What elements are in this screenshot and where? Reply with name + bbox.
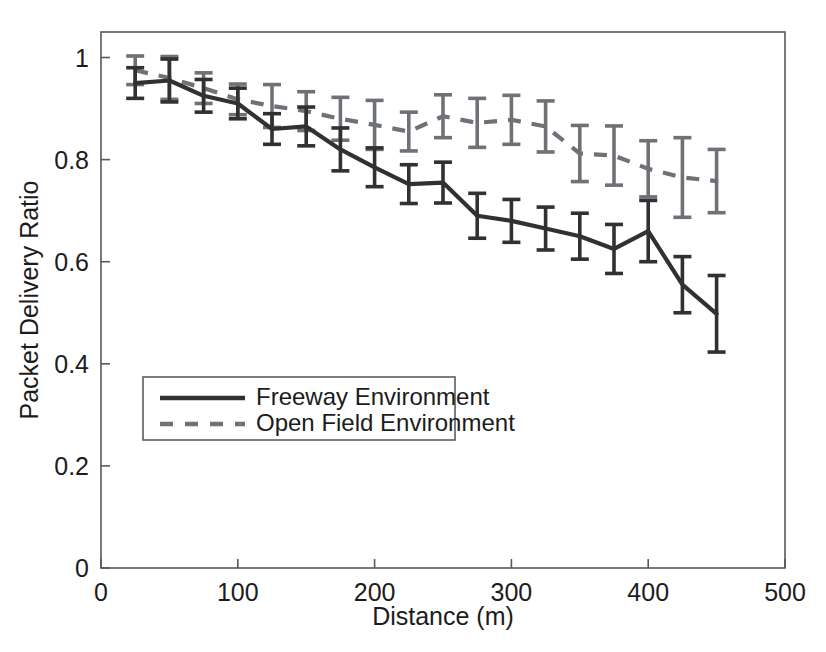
packet-delivery-ratio-chart: 0100200300400500 00.20.40.60.81 Distance… (0, 0, 826, 652)
y-axis-tick-labels: 00.20.40.60.81 (54, 44, 89, 582)
y-tick-label-0.2: 0.2 (54, 452, 89, 480)
y-tick-label-0: 0 (75, 554, 89, 582)
x-tick-label-500: 500 (764, 578, 806, 606)
legend-label-freeway: Freeway Environment (256, 383, 490, 410)
legend-label-open-field: Open Field Environment (256, 409, 515, 436)
y-tick-label-1: 1 (75, 44, 89, 72)
x-tick-label-400: 400 (627, 578, 669, 606)
chart-legend: Freeway Environment Open Field Environme… (143, 377, 515, 440)
y-tick-label-0.6: 0.6 (54, 248, 89, 276)
x-axis-title: Distance (m) (372, 602, 514, 630)
y-tick-label-0.8: 0.8 (54, 146, 89, 174)
x-tick-label-0: 0 (94, 578, 108, 606)
x-tick-label-100: 100 (217, 578, 259, 606)
y-tick-label-0.4: 0.4 (54, 350, 89, 378)
y-axis-title: Packet Delivery Ratio (15, 181, 43, 420)
chart-figure: 0100200300400500 00.20.40.60.81 Distance… (0, 0, 826, 652)
